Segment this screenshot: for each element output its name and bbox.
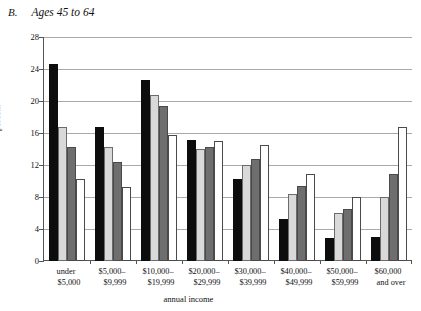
y-axis-tick — [39, 197, 44, 198]
y-axis-tick — [39, 37, 44, 38]
bar-group — [90, 37, 136, 261]
bar — [279, 219, 288, 261]
bar — [297, 186, 306, 261]
bar — [260, 145, 269, 261]
bar — [352, 197, 361, 261]
y-axis-tick-label: 16 — [17, 129, 39, 138]
y-axis-tick-labels: 0481216202428 — [15, 37, 39, 261]
bar — [251, 159, 260, 261]
x-axis-category-label-line: and over — [365, 277, 417, 288]
x-axis-separator-tick — [366, 260, 367, 264]
bar-group — [320, 37, 366, 261]
bar — [113, 162, 122, 261]
bar — [380, 197, 389, 261]
x-axis-separator-tick — [320, 260, 321, 264]
y-axis-tick — [39, 69, 44, 70]
bar — [76, 179, 85, 261]
bar-group — [44, 37, 90, 261]
bar — [214, 141, 223, 261]
y-axis-tick-label: 20 — [17, 97, 39, 106]
bar — [334, 213, 343, 261]
x-axis-category-labels: under$5,000$5,000–$9,999$10,000–$19,999$… — [43, 266, 411, 296]
bar — [187, 140, 196, 261]
x-axis-category-label-line: $60,000 — [359, 266, 417, 277]
bar — [306, 174, 315, 261]
bar — [233, 179, 242, 261]
y-axis-tick — [39, 133, 44, 134]
y-axis-tick — [39, 229, 44, 230]
bar — [196, 149, 205, 261]
bar-group — [366, 37, 412, 261]
panel-title: Ages 45 to 64 — [31, 6, 94, 18]
bar — [159, 106, 168, 261]
x-axis-separator-tick — [228, 260, 229, 264]
bar-group — [136, 37, 182, 261]
x-axis-separator-tick — [136, 260, 137, 264]
y-axis-tick-label: 12 — [17, 161, 39, 170]
bar — [288, 194, 297, 261]
bar — [49, 64, 58, 261]
bar — [104, 147, 113, 261]
x-axis-separator-tick — [182, 260, 183, 264]
bar — [371, 237, 380, 261]
panel-letter: B. — [8, 6, 17, 18]
bar — [205, 147, 214, 261]
bar — [242, 165, 251, 261]
bar — [150, 95, 159, 261]
x-axis-category-label: $60,000and over — [359, 266, 417, 288]
y-axis-tick — [39, 165, 44, 166]
bar — [325, 238, 334, 261]
y-axis-tick-label: 28 — [17, 33, 39, 42]
y-axis-tick-label: 24 — [17, 65, 39, 74]
y-axis-tick-label: 4 — [17, 225, 39, 234]
x-axis-separator-tick — [411, 260, 412, 264]
x-axis-title-text: annual income — [164, 294, 214, 304]
bar — [168, 135, 177, 261]
bar-group — [228, 37, 274, 261]
y-axis-tick — [39, 101, 44, 102]
x-axis-separator-tick — [274, 260, 275, 264]
figure-header: B. Ages 45 to 64 — [8, 6, 94, 18]
bar — [58, 127, 67, 261]
y-axis-tick-label: 0 — [17, 257, 39, 266]
bar-group — [182, 37, 228, 261]
x-axis-title: annual income — [0, 294, 421, 304]
bar — [343, 209, 352, 261]
x-axis-separator-tick — [90, 260, 91, 264]
bar — [398, 127, 407, 261]
bar-group — [274, 37, 320, 261]
y-axis-tick-label: 8 — [17, 193, 39, 202]
bar — [122, 187, 131, 261]
y-axis-title: percent — [0, 105, 2, 131]
bars-layer — [44, 37, 412, 261]
y-axis-tick — [39, 261, 44, 262]
plot-area — [43, 37, 411, 261]
bar — [141, 80, 150, 261]
bar — [95, 127, 104, 261]
bar — [67, 147, 76, 261]
bar — [389, 174, 398, 261]
